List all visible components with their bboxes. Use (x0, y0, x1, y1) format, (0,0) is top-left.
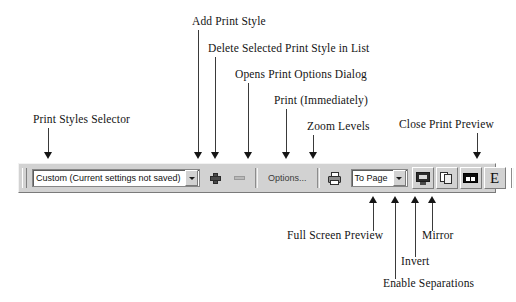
mirror-e-icon: E (490, 171, 499, 186)
arrow-enable-separations (391, 196, 399, 203)
leader-line-print-immediately (286, 109, 287, 153)
callout-print-styles-selector: Print Styles Selector (33, 113, 130, 126)
leader-line-mirror (432, 203, 433, 231)
invert-button[interactable] (460, 167, 482, 189)
arrow-close-print-preview (473, 152, 481, 159)
arrow-full-screen-preview (369, 196, 377, 203)
stacked-pages-icon (440, 172, 453, 185)
mirror-button[interactable]: E (484, 167, 506, 189)
printer-icon (328, 172, 343, 185)
callout-delete-selected-print-style: Delete Selected Print Style in List (208, 42, 369, 55)
print-options-label: Options... (263, 173, 312, 183)
add-print-style-button[interactable] (204, 167, 226, 189)
print-styles-selector-combobox[interactable]: Custom (Current settings not saved) (32, 169, 200, 187)
full-screen-preview-button[interactable] (412, 167, 434, 189)
leader-line-add-print-style (198, 30, 199, 153)
leader-line-invert (415, 203, 416, 257)
arrow-print-styles-selector (44, 152, 52, 159)
leader-line-zoom-levels (313, 135, 314, 153)
invert-icon (463, 173, 478, 183)
callout-full-screen-preview: Full Screen Preview (287, 229, 383, 242)
callout-print-immediately: Print (Immediately) (274, 94, 368, 107)
arrow-delete-selected-print-style (211, 152, 219, 159)
print-preview-toolbar: Custom (Current settings not saved) Opti… (18, 163, 496, 193)
arrow-print-immediately (282, 152, 290, 159)
enable-separations-button[interactable] (436, 167, 458, 189)
monitor-icon (416, 172, 430, 185)
arrow-zoom-levels (309, 152, 317, 159)
print-styles-selector-value: Custom (Current settings not saved) (33, 170, 185, 186)
leader-line-opens-print-options-dialog (248, 83, 249, 153)
leader-line-close-print-preview (477, 133, 478, 153)
zoom-level-combobox[interactable]: To Page (351, 169, 408, 187)
toolbar-separator (511, 168, 514, 188)
callout-enable-separations: Enable Separations (383, 277, 474, 290)
chevron-down-icon (396, 177, 402, 180)
print-options-button[interactable]: Options... (263, 167, 312, 189)
leader-line-delete-selected-print-style (215, 57, 216, 153)
delete-print-style-button[interactable] (228, 167, 250, 189)
toolbar-separator (317, 168, 320, 188)
callout-zoom-levels: Zoom Levels (307, 120, 370, 133)
leader-line-enable-separations (395, 203, 396, 279)
print-styles-dropdown-button[interactable] (185, 170, 198, 186)
plus-icon (210, 173, 221, 184)
chevron-down-icon (189, 177, 195, 180)
zoom-level-value: To Page (352, 170, 393, 186)
arrow-mirror (428, 196, 436, 203)
leader-line-print-styles-selector (48, 128, 49, 153)
arrow-add-print-style (194, 152, 202, 159)
callout-opens-print-options-dialog: Opens Print Options Dialog (235, 68, 367, 81)
toolbar-drag-handle[interactable] (22, 168, 27, 188)
minus-icon (234, 176, 245, 180)
callout-mirror: Mirror (422, 229, 454, 242)
print-immediately-button[interactable] (325, 167, 347, 189)
leader-line-full-screen-preview (373, 203, 374, 231)
callout-invert: Invert (401, 255, 429, 268)
arrow-opens-print-options-dialog (244, 152, 252, 159)
arrow-invert (411, 196, 419, 203)
callout-add-print-style: Add Print Style (192, 15, 266, 28)
zoom-level-dropdown-button[interactable] (393, 170, 406, 186)
toolbar-separator (255, 168, 258, 188)
callout-close-print-preview: Close Print Preview (399, 118, 494, 131)
